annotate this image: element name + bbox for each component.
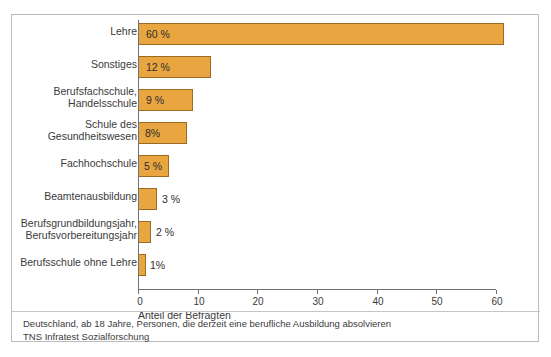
category-label: Berufsschule ohne Lehre <box>0 257 137 269</box>
bar-value-label: 3 % <box>162 192 180 206</box>
category-label: Berufsgrundbildungsjahr, Berufsvorbereit… <box>0 218 137 241</box>
bar[interactable] <box>138 188 157 210</box>
category-label: Schule des Gesundheitswesen <box>0 119 137 142</box>
bar-value-label: 2 % <box>156 225 174 239</box>
footer-divider <box>12 311 540 312</box>
bar-row: Beamtenausbildung 3 % <box>12 185 540 218</box>
footnote-line-2: TNS Infratest Sozialforschung <box>23 331 523 344</box>
bar-value-label: 60 % <box>146 27 170 41</box>
bar-track: 9 % <box>138 86 540 119</box>
bar-value-label: 9 % <box>146 93 164 107</box>
bar-track: 2 % <box>138 218 540 251</box>
bar-value-label: 8% <box>145 126 160 140</box>
category-label: Sonstiges <box>0 59 137 71</box>
bar-value-label: 12 % <box>146 60 170 74</box>
category-label: Lehre <box>0 26 137 38</box>
bar-track: 5 % <box>138 152 540 185</box>
bar-row: Berufsgrundbildungsjahr, Berufsvorbereit… <box>12 218 540 251</box>
bar-row: Lehre 60 % <box>12 20 540 53</box>
bar[interactable] <box>138 221 151 243</box>
bar-row: Sonstiges 12 % <box>12 53 540 86</box>
category-label: Fachhochschule <box>0 158 137 170</box>
bar-row: Berufsschule ohne Lehre 1% <box>12 251 540 284</box>
chart-frame: Lehre 60 % Sonstiges 12 % Berufsfachschu… <box>11 14 539 342</box>
bar-track: 1% <box>138 251 540 284</box>
chart-footnote: Deutschland, ab 18 Jahre, Personen, die … <box>23 318 523 343</box>
bar-track: 60 % <box>138 20 540 53</box>
bar[interactable] <box>138 23 504 45</box>
bar[interactable] <box>138 254 146 276</box>
bar-value-label: 5 % <box>144 159 162 173</box>
bar-row: Schule des Gesundheitswesen 8% <box>12 119 540 152</box>
footnote-line-1: Deutschland, ab 18 Jahre, Personen, die … <box>23 318 523 331</box>
category-label: Beamtenausbildung <box>0 191 137 203</box>
bar-row: Fachhochschule 5 % <box>12 152 540 185</box>
category-label: Berufsfachschule, Handelsschule <box>0 86 137 109</box>
bar-track: 12 % <box>138 53 540 86</box>
bar-track: 3 % <box>138 185 540 218</box>
bar-row: Berufsfachschule, Handelsschule 9 % <box>12 86 540 119</box>
bar-value-label: 1% <box>150 258 165 272</box>
bar-track: 8% <box>138 119 540 152</box>
plot-area: Lehre 60 % Sonstiges 12 % Berufsfachschu… <box>12 15 540 298</box>
